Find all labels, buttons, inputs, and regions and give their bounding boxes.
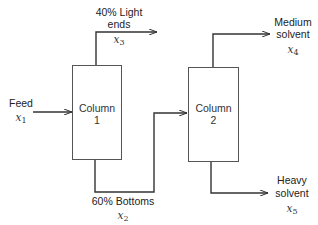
column-2-box: Column 2 (188, 67, 239, 162)
column-1-box: Column 1 (72, 65, 122, 160)
heavy-solvent-label-line2: solvent (270, 187, 314, 199)
light-ends-label-line1: 40% Light (93, 6, 145, 18)
feed-variable: x1 (10, 111, 32, 127)
bottoms-label: 60% Bottoms (88, 195, 158, 207)
light-ends-variable: x3 (108, 33, 130, 49)
heavy-solvent-arrow (211, 161, 268, 193)
medium-solvent-variable: x4 (282, 43, 304, 59)
medium-solvent-label-line2: solvent (271, 28, 315, 40)
medium-solvent-label-line1: Medium (273, 16, 313, 28)
column-1-label: Column (73, 102, 121, 114)
column-1-number: 1 (73, 114, 121, 126)
light-ends-label-line2: ends (103, 18, 135, 30)
process-flow-diagram: Column 1 Column 2 Feed x1 40% Light ends… (0, 0, 318, 225)
heavy-solvent-label-line1: Heavy (272, 174, 312, 186)
bottoms-variable: x2 (112, 209, 134, 225)
feed-label: Feed (8, 97, 34, 109)
column-2-number: 2 (189, 114, 238, 126)
medium-solvent-arrow (213, 34, 270, 67)
column-2-label: Column (189, 102, 238, 114)
heavy-solvent-variable: x5 (281, 202, 303, 218)
